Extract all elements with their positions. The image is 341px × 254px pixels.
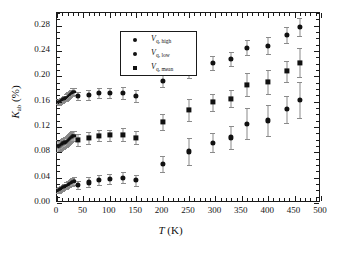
error-bar-cap bbox=[160, 87, 165, 88]
x-tick bbox=[237, 198, 238, 201]
x-tick bbox=[94, 198, 95, 201]
error-bar-cap bbox=[97, 88, 102, 89]
error-bar-cap bbox=[134, 131, 139, 132]
data-point bbox=[120, 91, 125, 96]
y-tick bbox=[57, 190, 60, 191]
y-tick bbox=[57, 121, 60, 122]
x-tick-top bbox=[273, 13, 274, 16]
y-tick-right bbox=[314, 102, 319, 103]
x-tick bbox=[136, 196, 137, 201]
error-bar-cap bbox=[97, 141, 102, 142]
data-point bbox=[86, 135, 91, 140]
y-tick bbox=[57, 178, 62, 179]
y-tick bbox=[57, 32, 60, 33]
error-bar-cap bbox=[67, 98, 72, 99]
error-bar-cap bbox=[97, 130, 102, 131]
error-bar-cap bbox=[297, 77, 302, 78]
data-point bbox=[160, 78, 165, 83]
x-tick-top bbox=[178, 13, 179, 16]
error-bar-cap bbox=[58, 104, 63, 105]
x-tick bbox=[252, 198, 253, 201]
legend-marker-circle-low bbox=[133, 52, 137, 56]
error-bar-cap bbox=[97, 175, 102, 176]
data-point bbox=[229, 96, 234, 101]
error-bar-cap bbox=[76, 100, 81, 101]
x-tick-top bbox=[147, 13, 148, 16]
error-bar-cap bbox=[245, 108, 250, 109]
data-point bbox=[76, 93, 81, 98]
data-point bbox=[97, 90, 102, 95]
error-bar-cap bbox=[266, 136, 271, 137]
y-tick-right bbox=[316, 159, 319, 160]
x-tick bbox=[258, 198, 259, 201]
x-tick bbox=[110, 196, 111, 201]
error-bar-cap bbox=[107, 184, 112, 185]
x-tick bbox=[184, 198, 185, 201]
x-tick bbox=[273, 198, 274, 201]
legend-item-vq-mean: Vq, mean bbox=[121, 61, 196, 76]
legend-item-vq-low: Vq, low bbox=[121, 47, 196, 62]
error-bar-cap bbox=[266, 94, 271, 95]
x-tick-top bbox=[83, 13, 84, 18]
error-bar-cap bbox=[210, 56, 215, 57]
y-tick-right bbox=[316, 171, 319, 172]
x-tick-top bbox=[310, 13, 311, 16]
data-point bbox=[297, 97, 302, 102]
x-tick-top bbox=[231, 13, 232, 16]
error-bar-cap bbox=[65, 100, 70, 101]
data-point bbox=[266, 43, 271, 48]
x-tick-top bbox=[205, 13, 206, 16]
x-tick bbox=[105, 198, 106, 201]
data-point bbox=[266, 79, 271, 84]
x-tick-top bbox=[215, 13, 216, 18]
error-bar-cap bbox=[229, 90, 234, 91]
error-bar-cap bbox=[107, 98, 112, 99]
x-tick-top bbox=[295, 13, 296, 18]
x-tick-top bbox=[289, 13, 290, 16]
x-tick-top bbox=[136, 13, 137, 18]
y-tick-right bbox=[316, 95, 319, 96]
error-bar-cap bbox=[229, 107, 234, 108]
x-tick-top bbox=[300, 13, 301, 16]
x-tick bbox=[226, 198, 227, 201]
x-tick bbox=[284, 198, 285, 201]
y-tick-right bbox=[316, 108, 319, 109]
legend-label-vq-mean: Vq, mean bbox=[151, 62, 173, 72]
error-bar-cap bbox=[121, 128, 126, 129]
figure-panel: Vq, high Vq, low Vq, mean 05010015020025… bbox=[0, 0, 341, 254]
x-tick bbox=[316, 198, 317, 201]
error-bar-cap bbox=[160, 130, 165, 131]
error-bar-cap bbox=[245, 40, 250, 41]
error-bar-cap bbox=[86, 144, 91, 145]
x-tick-top bbox=[152, 13, 153, 16]
y-tick bbox=[57, 140, 60, 141]
x-tick-top bbox=[94, 13, 95, 16]
y-tick bbox=[57, 51, 62, 52]
legend-marker-square-mean bbox=[133, 66, 137, 70]
y-tick-right bbox=[314, 51, 319, 52]
data-point bbox=[210, 100, 215, 105]
y-tick-right bbox=[314, 203, 319, 204]
error-bar-cap bbox=[297, 48, 302, 49]
error-bar-cap bbox=[297, 36, 302, 37]
error-bar-cap bbox=[64, 101, 69, 102]
x-tick bbox=[200, 198, 201, 201]
y-tick-right bbox=[316, 133, 319, 134]
y-tick bbox=[57, 203, 62, 204]
data-point bbox=[134, 135, 139, 140]
x-tick-top bbox=[242, 13, 243, 18]
y-tick-right bbox=[316, 114, 319, 115]
x-tick bbox=[99, 198, 100, 201]
error-bar-cap bbox=[187, 99, 192, 100]
x-tick bbox=[62, 198, 63, 201]
x-tick-top bbox=[73, 13, 74, 16]
data-point bbox=[284, 69, 289, 74]
data-point bbox=[97, 133, 102, 138]
error-bar-cap bbox=[245, 55, 250, 56]
error-bar-cap bbox=[107, 88, 112, 89]
x-tick-top bbox=[115, 13, 116, 16]
error-bar-cap bbox=[229, 66, 234, 67]
error-bar-cap bbox=[284, 82, 289, 83]
x-tick-top bbox=[284, 13, 285, 16]
data-point bbox=[244, 82, 249, 87]
